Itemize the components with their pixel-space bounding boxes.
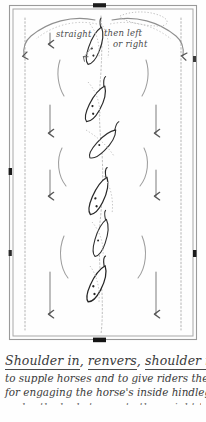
pencil-loop-top-right — [120, 12, 167, 26]
caption-sep-1: , — [80, 353, 88, 368]
marker-left-lower — [9, 250, 12, 256]
marker-bottom-center — [93, 338, 106, 343]
marker-left-mid — [9, 168, 12, 175]
caption-line-4: under the body to create the weight-taki… — [5, 401, 201, 406]
annotation-then-left: then left — [104, 29, 142, 39]
hook-right-mid — [140, 148, 147, 186]
caption-line-2: to supple horses and to give riders the … — [5, 372, 201, 384]
arena-svg — [0, 0, 206, 346]
horse-figure-3 — [86, 120, 125, 162]
horse-neck-2 — [101, 76, 108, 86]
caption-block: Shoulder in, renvers, shoulder in ~ to s… — [0, 348, 206, 422]
hook-right-upper — [142, 60, 148, 96]
horse-body-5 — [90, 218, 111, 258]
caption-line-4-clip: under the body to create the weight-taki… — [5, 398, 201, 405]
hook-left-mid — [59, 148, 66, 186]
horse-body-2 — [82, 83, 110, 124]
hook-left-upper — [58, 60, 64, 96]
hook-left-lower — [61, 236, 68, 278]
dressage-arena-diagram: straight then left or right — [0, 0, 206, 346]
horse-body-6 — [84, 263, 111, 304]
annotation-or-right: or right — [113, 40, 148, 50]
marker-right-mid — [193, 250, 196, 257]
caption-line-1: Shoulder in, renvers, shoulder in ~ — [5, 353, 201, 368]
horse-body-4 — [86, 175, 113, 217]
marker-top-center — [93, 3, 106, 7]
horse-neck-4 — [103, 167, 110, 177]
caption-line-3: for engaging the horse's inside hindleg … — [5, 386, 201, 398]
caption-sep-2: , — [137, 353, 145, 368]
hook-right-lower — [138, 236, 145, 278]
horse-figure-1 — [83, 17, 109, 66]
caption-term-renvers: renvers — [88, 353, 137, 370]
horse-figure-5 — [90, 210, 113, 258]
horse-body-3 — [86, 126, 120, 162]
caption-term-shoulder-in-2: shoulder in — [145, 353, 206, 370]
horse-neck-6 — [101, 256, 108, 266]
horse-figures — [82, 17, 125, 304]
horse-neck-3 — [113, 121, 121, 129]
horse-neck-5 — [103, 210, 108, 219]
caption-term-shoulder-in-1: Shoulder in — [5, 353, 80, 370]
drawing-sheet: straight then left or right Shoulder in,… — [0, 0, 206, 422]
marker-right-upper — [193, 56, 196, 62]
annotation-straight: straight — [56, 30, 92, 40]
horse-neck-1 — [98, 18, 104, 27]
